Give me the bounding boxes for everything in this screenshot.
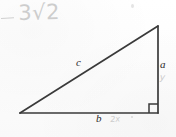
scan-speck-top [131, 4, 134, 8]
vertical-leg-label: a [160, 59, 166, 70]
scan-speck-bottom [131, 116, 133, 118]
horizontal-leg-label: b [96, 113, 102, 124]
figure-canvas: c a b 3√2 y 2x [0, 0, 176, 137]
hypotenuse-label: c [76, 57, 81, 68]
handwritten-expression: 3√2 [18, 2, 60, 24]
handwritten-horizontal-leg-variable: 2x [110, 115, 120, 124]
handwritten-vertical-leg-variable: y [160, 73, 166, 82]
hypotenuse-line [20, 26, 158, 113]
right-angle-marker-icon [149, 104, 158, 113]
